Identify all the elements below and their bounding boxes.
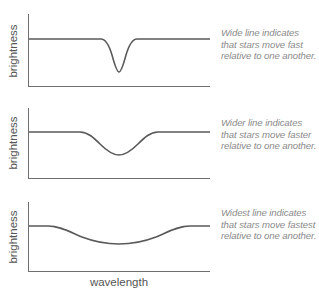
y-axis-label: brightness [7, 116, 19, 169]
note-line: that stars move fast [221, 39, 319, 51]
note-wide: Wide line indicates that stars move fast… [221, 27, 319, 62]
note-line: Wide line indicates [221, 27, 319, 39]
note-line: Widest line indicates [221, 207, 319, 219]
spectrum-curve-medium-dip [29, 132, 210, 155]
spectrum-curve-narrow-dip [29, 39, 210, 72]
note-line: that stars move fastest [221, 219, 319, 231]
note-line: Wider line indicates [221, 117, 319, 129]
note-line: relative to one another. [221, 230, 319, 242]
note-widest: Widest line indicates that stars move fa… [221, 207, 319, 242]
panel-wider: brightness [7, 108, 210, 179]
note-line: relative to one another. [221, 50, 319, 62]
x-axis-label: wavelength [89, 276, 148, 288]
spectrum-curve-broad-dip [29, 226, 210, 244]
note-line: that stars move faster [221, 129, 319, 141]
note-line: relative to one another. [221, 140, 319, 152]
y-axis-label: brightness [7, 24, 19, 77]
panel-wide: brightness [7, 14, 210, 87]
note-wider: Wider line indicates that stars move fas… [221, 117, 319, 152]
panel-widest: brightness wavelength [7, 202, 210, 288]
y-axis-label: brightness [7, 210, 19, 263]
